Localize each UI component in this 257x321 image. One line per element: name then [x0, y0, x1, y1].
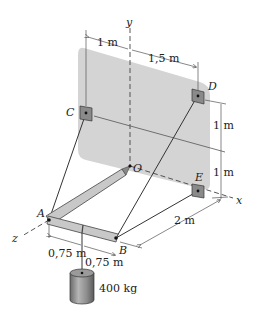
statics-diagram: y x z 1 m 1,5 m 1 m 1 m C D E	[0, 0, 257, 321]
label-o: O	[133, 162, 142, 175]
dim-y-d: 1,5 m	[148, 52, 180, 65]
weight-cylinder	[70, 269, 94, 304]
dim-ab-line-2	[84, 246, 115, 255]
point-b	[114, 236, 118, 240]
z-axis	[22, 220, 49, 236]
bracket-e	[192, 184, 204, 198]
dim-a-load: 0,75 m	[48, 247, 87, 260]
label-d: D	[207, 80, 217, 93]
boom-oa	[46, 169, 126, 224]
bracket-c	[80, 106, 92, 121]
y-axis-label: y	[125, 16, 133, 29]
dim-c-y: 1 m	[97, 36, 118, 49]
label-c: C	[66, 106, 75, 119]
dim-ab-line-1	[50, 236, 81, 245]
dim-e-drop: 1 m	[213, 166, 234, 179]
z-axis-label: z	[11, 232, 18, 245]
wall-plate	[78, 48, 210, 190]
bracket-d	[192, 89, 204, 104]
dim-d-drop: 1 m	[213, 119, 234, 132]
dim-load-b: 0,75 m	[85, 256, 124, 269]
point-a	[47, 218, 51, 222]
label-a: A	[36, 207, 45, 220]
x-axis-label: x	[236, 194, 243, 207]
point-o	[128, 164, 131, 167]
dim-right-bottom-ext	[212, 197, 228, 198]
load-label: 400 kg	[99, 282, 137, 295]
label-e: E	[194, 171, 203, 184]
dim-depth: 2 m	[174, 214, 195, 227]
